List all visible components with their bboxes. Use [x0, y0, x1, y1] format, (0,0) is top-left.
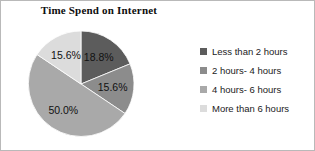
pie-slice-value-label: 18.8% [84, 51, 114, 63]
legend-item-label: Less than 2 hours [212, 47, 288, 57]
legend-item[interactable]: Less than 2 hours [200, 43, 314, 60]
pie-svg: 18.8%15.6%50.0%15.6% [1, 1, 197, 151]
pie-slice-value-label: 15.6% [51, 49, 81, 61]
legend-item[interactable]: 4 hours- 6 hours [200, 81, 314, 98]
pie-plot-area: 18.8%15.6%50.0%15.6% [1, 1, 197, 151]
legend-swatch-icon [200, 86, 207, 93]
chart-legend: Less than 2 hours 2 hours- 4 hours 4 hou… [200, 43, 314, 119]
pie-chart-figure: Time Spend on Internet 18.8%15.6%50.0%15… [0, 0, 315, 151]
legend-item[interactable]: 2 hours- 4 hours [200, 62, 314, 79]
pie-slice-value-label: 50.0% [48, 104, 78, 116]
legend-item[interactable]: More than 6 hours [200, 100, 314, 117]
pie-slice-value-label: 15.6% [98, 81, 128, 93]
legend-swatch-icon [200, 48, 207, 55]
legend-swatch-icon [200, 67, 207, 74]
legend-item-label: 4 hours- 6 hours [212, 85, 281, 95]
legend-swatch-icon [200, 105, 207, 112]
legend-item-label: More than 6 hours [212, 104, 289, 114]
legend-item-label: 2 hours- 4 hours [212, 66, 281, 76]
